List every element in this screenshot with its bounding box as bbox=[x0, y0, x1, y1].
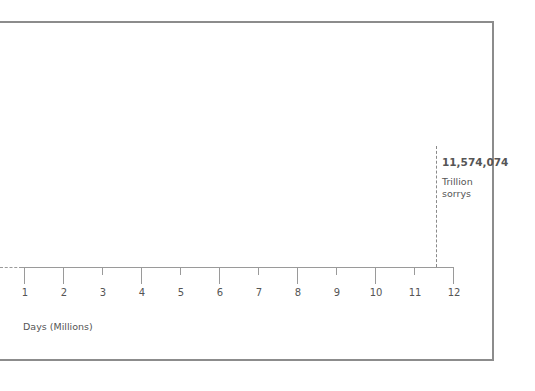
x-tick-label: 1 bbox=[22, 287, 28, 298]
x-tick bbox=[63, 267, 64, 284]
x-tick bbox=[141, 267, 142, 284]
x-tick-label: 11 bbox=[409, 287, 422, 298]
x-tick-label: 6 bbox=[217, 287, 223, 298]
x-axis-line bbox=[22, 267, 454, 268]
x-tick-label: 9 bbox=[334, 287, 340, 298]
x-tick-label: 5 bbox=[178, 287, 184, 298]
annotation-unit-line1: Trillion bbox=[442, 176, 492, 188]
x-tick-label: 7 bbox=[256, 287, 262, 298]
x-tick bbox=[414, 267, 415, 275]
chart-frame bbox=[0, 21, 494, 361]
annotation-unit: Trillion sorrys bbox=[442, 176, 492, 200]
x-tick bbox=[375, 267, 376, 284]
x-tick bbox=[219, 267, 220, 284]
x-tick bbox=[102, 267, 103, 275]
x-tick-label: 8 bbox=[295, 287, 301, 298]
x-tick bbox=[453, 267, 454, 284]
x-tick bbox=[297, 267, 298, 284]
x-tick-label: 3 bbox=[100, 287, 106, 298]
annotation-marker-line bbox=[436, 146, 437, 267]
x-tick bbox=[336, 267, 337, 275]
annotation-unit-line2: sorrys bbox=[442, 188, 492, 200]
x-tick-label: 12 bbox=[448, 287, 461, 298]
x-tick bbox=[24, 267, 25, 284]
x-tick-label: 4 bbox=[139, 287, 145, 298]
annotation-value: 11,574,074 bbox=[442, 156, 508, 168]
x-axis-label: Days (Millions) bbox=[23, 321, 93, 332]
axis-dashed-extension bbox=[0, 267, 22, 268]
x-tick-label: 10 bbox=[370, 287, 383, 298]
x-tick-label: 2 bbox=[61, 287, 67, 298]
x-tick bbox=[180, 267, 181, 275]
x-tick bbox=[258, 267, 259, 275]
